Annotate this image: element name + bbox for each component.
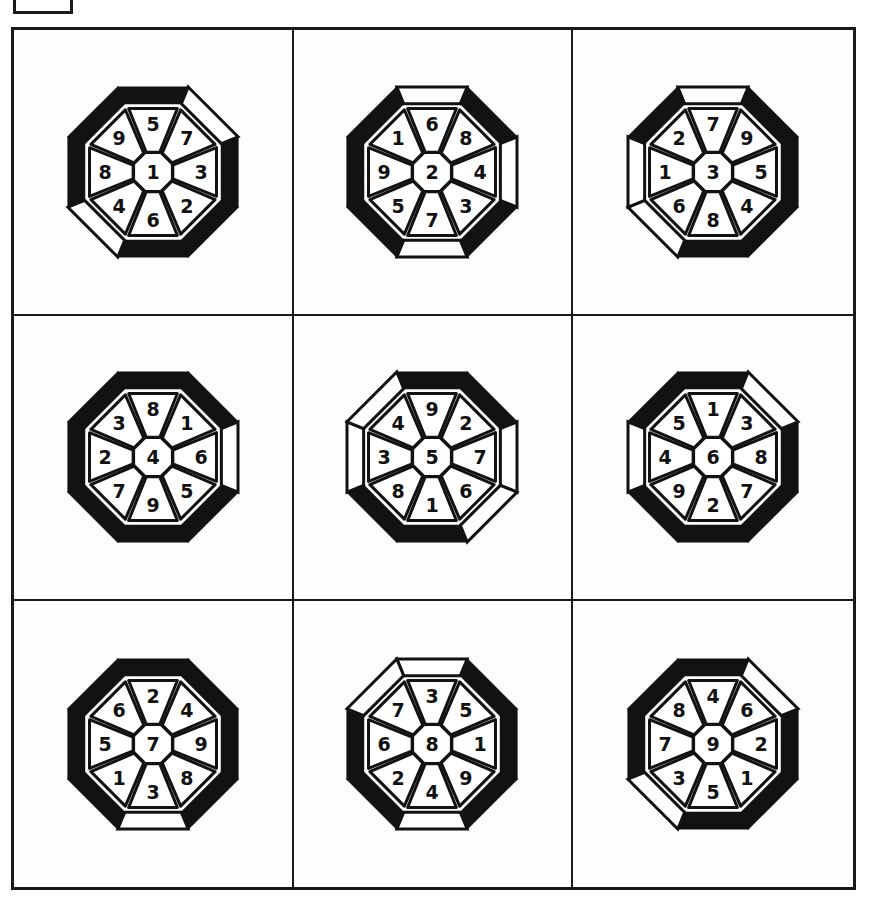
sector-number-bottom: 9 (146, 494, 159, 516)
sector-number-lower-right: 6 (460, 480, 473, 502)
sector-number-lower-left: 7 (112, 480, 125, 502)
sector-number-lower-left: 6 (673, 195, 686, 217)
octagon-wheel-5[interactable]: 927618345 (332, 357, 532, 557)
sector-number-right: 3 (194, 161, 207, 183)
center-number: 4 (146, 446, 159, 468)
ring-segment-right (501, 709, 518, 779)
ring-segment-bottom (678, 813, 748, 830)
sector-number-left: 1 (659, 161, 672, 183)
sector-number-lower-right: 1 (740, 767, 753, 789)
sector-number-left: 8 (98, 161, 111, 183)
ring-segment-bottom (118, 813, 188, 830)
sector-number-lower-right: 3 (460, 195, 473, 217)
octagon-wheel-6[interactable]: 138729456 (613, 357, 813, 557)
grid-cell-r2c2[interactable]: 927618345 (294, 316, 574, 602)
ring-segment-left (628, 709, 645, 779)
ring-segment-right (221, 422, 238, 492)
ring-segment-right (221, 709, 238, 779)
sector-number-upper-right: 5 (460, 699, 473, 721)
grid-cell-r1c2[interactable]: 684375912 (294, 30, 574, 316)
octagon-wheel-3[interactable]: 795486123 (613, 72, 813, 272)
sector-number-bottom: 3 (146, 781, 159, 803)
sector-number-bottom: 1 (426, 494, 439, 516)
ring-segment-bottom (118, 240, 188, 257)
ring-segment-bottom (397, 526, 467, 543)
sector-number-lower-left: 3 (673, 767, 686, 789)
sector-number-upper-right: 4 (180, 699, 193, 721)
octagon-wheel-2[interactable]: 684375912 (332, 72, 532, 272)
ring-segment-top (397, 87, 467, 104)
ring-segment-bottom (678, 240, 748, 257)
ring-segment-left (628, 422, 645, 492)
ring-segment-left (347, 422, 364, 492)
sector-number-upper-right: 3 (740, 413, 753, 435)
ring-segment-top (397, 659, 467, 676)
center-number: 5 (426, 446, 439, 468)
ring-segment-bottom (118, 526, 188, 543)
ring-segment-right (221, 137, 238, 207)
sector-number-lower-right: 9 (460, 767, 473, 789)
sector-number-top: 3 (426, 685, 439, 707)
sector-number-lower-left: 2 (392, 767, 405, 789)
ring-segment-left (347, 137, 364, 207)
sector-number-lower-right: 5 (180, 480, 193, 502)
sector-number-left: 6 (378, 733, 391, 755)
sector-number-left: 5 (98, 733, 111, 755)
grid-cell-r2c1[interactable]: 816597234 (14, 316, 294, 602)
sector-number-upper-right: 2 (460, 413, 473, 435)
grid-cell-r2c3[interactable]: 138729456 (573, 316, 853, 602)
sector-number-bottom: 6 (146, 209, 159, 231)
sector-number-lower-left: 5 (392, 195, 405, 217)
ring-segment-right (782, 422, 799, 492)
sector-number-bottom: 5 (707, 781, 720, 803)
sector-number-upper-left: 8 (673, 699, 686, 721)
sector-number-upper-right: 9 (740, 127, 753, 149)
sector-number-top: 8 (146, 398, 159, 420)
ring-segment-top (678, 372, 748, 389)
ring-segment-right (501, 137, 518, 207)
sector-number-bottom: 7 (426, 209, 439, 231)
octagon-wheel-8[interactable]: 351942678 (332, 644, 532, 844)
octagon-wheel-7[interactable]: 249831567 (53, 644, 253, 844)
grid-cell-r3c1[interactable]: 249831567 (14, 601, 294, 887)
sector-number-top: 2 (146, 685, 159, 707)
sector-number-upper-left: 1 (392, 127, 405, 149)
ring-segment-left (68, 137, 85, 207)
sector-number-lower-left: 8 (392, 480, 405, 502)
grid-cell-r1c1[interactable]: 573264891 (14, 30, 294, 316)
sector-number-right: 7 (474, 446, 487, 468)
center-number: 8 (426, 733, 439, 755)
ring-segment-bottom (397, 813, 467, 830)
sector-number-bottom: 8 (707, 209, 720, 231)
sector-number-upper-right: 6 (740, 699, 753, 721)
sector-number-right: 5 (755, 161, 768, 183)
center-number: 9 (707, 733, 720, 755)
sector-number-lower-left: 1 (112, 767, 125, 789)
center-number: 2 (426, 161, 439, 183)
sector-number-lower-right: 4 (740, 195, 753, 217)
sector-number-upper-right: 8 (460, 127, 473, 149)
sector-number-bottom: 2 (707, 494, 720, 516)
grid-cell-r3c3[interactable]: 462153789 (573, 601, 853, 887)
octagon-wheel-4[interactable]: 816597234 (53, 357, 253, 557)
octagon-wheel-9[interactable]: 462153789 (613, 644, 813, 844)
octagon-wheel-1[interactable]: 573264891 (53, 72, 253, 272)
ring-segment-top (118, 659, 188, 676)
grid-cell-r1c3[interactable]: 795486123 (573, 30, 853, 316)
center-number: 7 (146, 733, 159, 755)
sector-number-upper-left: 6 (112, 699, 125, 721)
sector-number-lower-right: 2 (180, 195, 193, 217)
grid-cell-r3c2[interactable]: 351942678 (294, 601, 574, 887)
ring-segment-left (68, 709, 85, 779)
sector-number-lower-left: 9 (673, 480, 686, 502)
ring-segment-top (678, 87, 748, 104)
ring-segment-left (68, 422, 85, 492)
sector-number-left: 2 (98, 446, 111, 468)
ring-segment-right (501, 422, 518, 492)
sector-number-upper-left: 3 (112, 413, 125, 435)
ring-segment-right (782, 709, 799, 779)
puzzle-grid: 5732648916843759127954861238165972349276… (11, 27, 856, 890)
sector-number-top: 7 (707, 113, 720, 135)
ring-segment-bottom (678, 526, 748, 543)
sector-number-lower-left: 4 (112, 195, 125, 217)
